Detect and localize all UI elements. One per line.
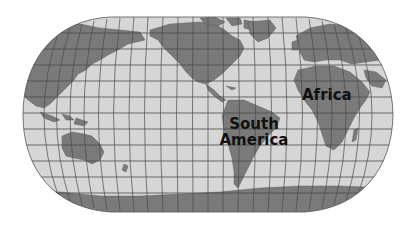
label-africa: Africa: [302, 88, 352, 103]
label-south-america-line1: South: [219, 116, 289, 132]
europe: [296, 24, 388, 64]
uk: [292, 40, 298, 50]
world-map: [0, 0, 416, 228]
label-south-america: South America: [219, 116, 289, 148]
label-south-america-line2: America: [219, 132, 289, 148]
